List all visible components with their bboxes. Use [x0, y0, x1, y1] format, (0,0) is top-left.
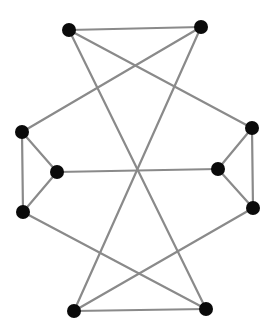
- edge-C-E: [22, 132, 57, 172]
- graph-diagram: [0, 0, 277, 330]
- node-A: [62, 23, 76, 37]
- node-H: [246, 201, 260, 215]
- edge-D-F: [218, 128, 252, 169]
- edge-F-H: [218, 169, 253, 208]
- node-D: [245, 121, 259, 135]
- node-I: [67, 304, 81, 318]
- node-F: [211, 162, 225, 176]
- edge-I-J: [74, 309, 206, 311]
- edge-A-D: [69, 30, 252, 128]
- edge-E-F: [57, 169, 218, 172]
- node-E: [50, 165, 64, 179]
- node-J: [199, 302, 213, 316]
- edge-A-B: [69, 27, 201, 30]
- node-G: [16, 205, 30, 219]
- node-B: [194, 20, 208, 34]
- edge-E-G: [23, 172, 57, 212]
- edge-C-G: [22, 132, 23, 212]
- edge-G-J: [23, 212, 206, 309]
- edge-D-H: [252, 128, 253, 208]
- node-C: [15, 125, 29, 139]
